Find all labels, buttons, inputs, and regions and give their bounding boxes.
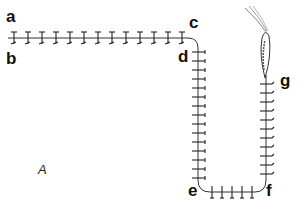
bristles bbox=[11, 32, 274, 198]
label-c: c bbox=[189, 14, 198, 31]
label-d: d bbox=[178, 48, 188, 65]
label-g: g bbox=[280, 72, 290, 89]
label-a: a bbox=[6, 8, 15, 25]
label-b: b bbox=[6, 50, 16, 67]
panel-label: A bbox=[38, 162, 47, 177]
label-f: f bbox=[266, 182, 272, 199]
label-e: e bbox=[188, 182, 197, 199]
terminal-organism bbox=[245, 6, 270, 78]
